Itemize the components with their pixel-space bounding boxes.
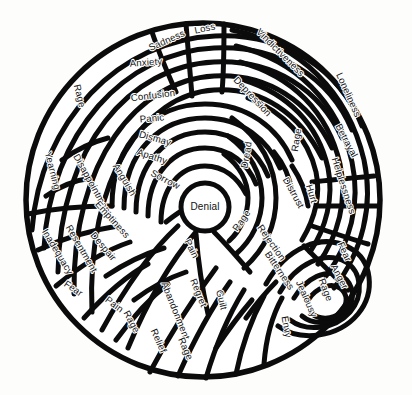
emotion-label-denial[interactable]: Denial bbox=[190, 201, 219, 212]
maze-svg: LossSadnessAnxietyConfusionPanicDismayAp… bbox=[0, 0, 412, 395]
emotion-label-panic[interactable]: Panic bbox=[139, 111, 165, 124]
emotion-labyrinth-diagram: LossSadnessAnxietyConfusionPanicDismayAp… bbox=[0, 0, 412, 395]
page-root: LossSadnessAnxietyConfusionPanicDismayAp… bbox=[0, 0, 412, 395]
emotion-label-anxiety[interactable]: Anxiety bbox=[129, 55, 162, 68]
